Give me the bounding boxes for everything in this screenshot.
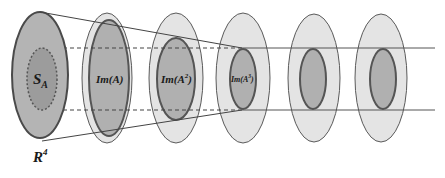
diagram-canvas: SA Im(A) Im(A2) Im(A3) R4 xyxy=(0,0,445,178)
im-a4-ellipse xyxy=(300,49,326,109)
cone-upper-line xyxy=(40,12,242,48)
nested-images-diagram: SA Im(A) Im(A2) Im(A3) R4 xyxy=(0,0,445,178)
im-a3-label: Im(A3) xyxy=(230,73,254,84)
cone-lower-line xyxy=(42,110,242,141)
im-a5-ellipse xyxy=(370,49,396,109)
r4-label: R4 xyxy=(32,147,48,165)
im-a-label: Im(A) xyxy=(95,73,124,86)
